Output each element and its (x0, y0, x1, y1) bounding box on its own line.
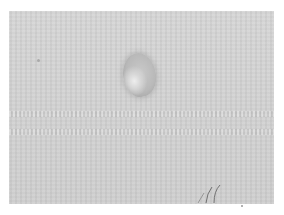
oval-object (120, 51, 159, 99)
speck (241, 205, 243, 207)
pencil-mark-icon (194, 183, 234, 205)
texture-band (9, 129, 274, 135)
speck (37, 59, 40, 62)
photograph (9, 11, 274, 204)
texture-band (9, 111, 274, 117)
